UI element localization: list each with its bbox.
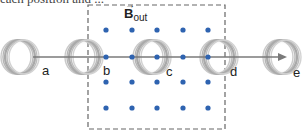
position-label-b: b <box>103 64 110 77</box>
field-dot <box>154 54 159 59</box>
field-dot <box>154 105 159 110</box>
field-dot <box>154 79 159 84</box>
field-dot <box>180 54 185 59</box>
field-dot <box>205 105 210 110</box>
field-dot <box>180 27 185 32</box>
field-dot <box>103 54 108 59</box>
field-dot <box>154 27 159 32</box>
field-dot <box>129 79 134 84</box>
position-label-a: a <box>42 64 49 77</box>
field-dot <box>180 79 185 84</box>
field-dot <box>129 105 134 110</box>
field-dot <box>205 27 210 32</box>
field-dot <box>103 79 108 84</box>
field-dot <box>205 54 210 59</box>
field-dot <box>205 79 210 84</box>
field-dot <box>180 105 185 110</box>
field-dot <box>129 54 134 59</box>
field-dot <box>129 27 134 32</box>
vector-arrow-icon: → <box>125 0 135 10</box>
position-label-d: d <box>230 65 237 78</box>
field-dot <box>103 105 108 110</box>
field-subscript: out <box>133 12 147 23</box>
position-label-c: c <box>166 65 173 78</box>
field-label: →Bout <box>124 6 147 23</box>
position-label-e: e <box>293 66 300 79</box>
field-dot <box>103 27 108 32</box>
